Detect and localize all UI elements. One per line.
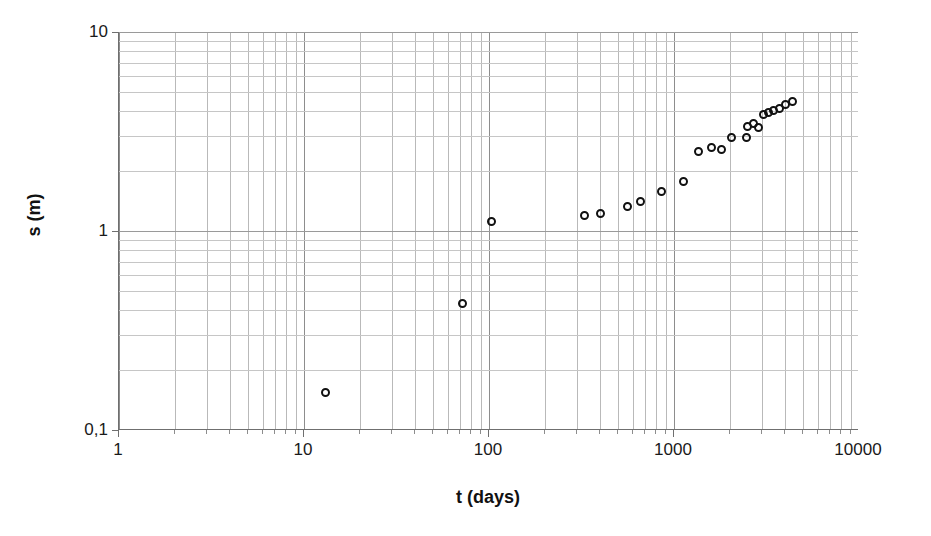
x-axis-tick-label: 10000 — [834, 440, 881, 460]
x-axis-tick — [459, 430, 460, 434]
x-axis-tick — [576, 430, 577, 434]
data-point — [623, 202, 632, 211]
gridline-horizontal — [119, 335, 858, 336]
y-axis-tick-label: 1 — [99, 221, 108, 241]
x-axis-tick — [262, 430, 263, 434]
scatter-chart: 0,1110 110100100010000 t (days) s (m) — [0, 0, 931, 536]
x-axis-tick — [229, 430, 230, 434]
x-axis-tick — [488, 430, 489, 437]
gridline-horizontal — [119, 111, 858, 112]
x-axis-tick — [432, 430, 433, 434]
x-axis-title: t (days) — [118, 487, 858, 508]
x-axis-tick — [644, 430, 645, 434]
x-axis-tick — [632, 430, 633, 434]
gridline-horizontal — [119, 51, 858, 52]
gridline-horizontal — [119, 310, 858, 311]
x-axis-tick — [761, 430, 762, 434]
gridline-horizontal — [119, 76, 858, 77]
x-axis-tick — [414, 430, 415, 434]
x-axis-tick — [174, 430, 175, 434]
x-axis-tick — [247, 430, 248, 434]
x-axis-tick — [206, 430, 207, 434]
x-axis-tick-label: 1000 — [654, 440, 692, 460]
x-axis-tick — [599, 430, 600, 434]
x-axis-tick — [850, 430, 851, 434]
data-point — [742, 133, 751, 142]
y-axis-tick-label: 10 — [89, 22, 108, 42]
data-point — [717, 145, 726, 154]
x-axis-tick — [303, 430, 304, 437]
x-axis-tick-label: 1 — [113, 440, 122, 460]
gridline-horizontal — [119, 32, 858, 33]
gridline-horizontal — [119, 41, 858, 42]
data-point — [487, 217, 496, 226]
y-axis-tick-label: 0,1 — [84, 420, 108, 440]
gridline-horizontal — [119, 92, 858, 93]
x-axis-tick — [544, 430, 545, 434]
gridline-horizontal — [119, 275, 858, 276]
x-axis-tick — [285, 430, 286, 434]
plot-area: 0,1110 — [118, 32, 858, 430]
x-axis-tick — [391, 430, 392, 434]
gridline-horizontal — [119, 370, 858, 371]
gridline-horizontal — [119, 250, 858, 251]
x-axis-tick — [784, 430, 785, 434]
y-axis-tick — [112, 231, 119, 232]
gridline-horizontal — [119, 63, 858, 64]
x-axis-tick — [655, 430, 656, 434]
x-axis-tick — [802, 430, 803, 434]
gridline-horizontal — [119, 291, 858, 292]
x-axis-tick — [673, 430, 674, 437]
data-point — [679, 177, 688, 186]
data-point — [596, 209, 605, 218]
x-axis-tick — [617, 430, 618, 434]
data-point — [321, 388, 330, 397]
data-point — [754, 123, 763, 132]
x-axis-tick — [274, 430, 275, 434]
gridline-horizontal — [119, 262, 858, 263]
gridline-horizontal — [119, 231, 858, 232]
gridline-horizontal — [119, 171, 858, 172]
x-axis-tick — [295, 430, 296, 434]
x-axis-tick — [447, 430, 448, 434]
x-axis-tick — [829, 430, 830, 434]
x-axis-tick — [817, 430, 818, 434]
data-point — [694, 147, 703, 156]
gridlines — [119, 32, 858, 429]
x-axis-tick-label: 100 — [474, 440, 502, 460]
x-axis-tick — [470, 430, 471, 434]
x-axis-tick — [665, 430, 666, 434]
x-axis-tick-label: 10 — [294, 440, 313, 460]
x-axis-tick — [359, 430, 360, 434]
x-axis-tick — [480, 430, 481, 434]
x-axis-tick — [840, 430, 841, 434]
y-axis-title: s (m) — [24, 193, 45, 236]
x-axis-tick — [118, 430, 119, 437]
gridline-horizontal — [119, 240, 858, 241]
y-axis-tick — [112, 32, 119, 33]
x-axis-tick — [729, 430, 730, 434]
